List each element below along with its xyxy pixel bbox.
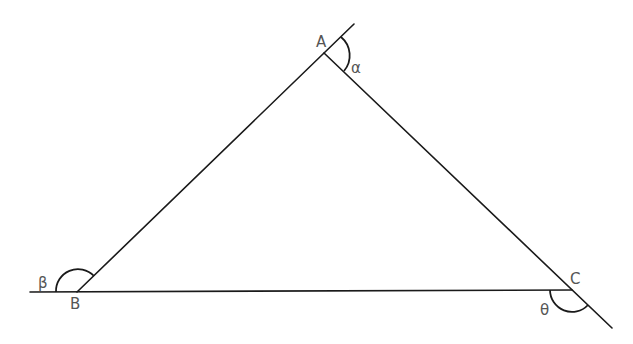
line-ab-extended <box>77 24 354 292</box>
angle-arc-alpha <box>341 37 350 71</box>
triangle-diagram: A B C α β θ <box>0 0 633 344</box>
angle-arc-theta <box>550 290 588 312</box>
line-bc-extended <box>30 290 572 292</box>
vertex-label-b: B <box>70 295 80 313</box>
angle-label-beta: β <box>38 274 48 292</box>
angle-label-alpha: α <box>351 59 361 77</box>
diagram-canvas: A B C α β θ <box>0 0 633 344</box>
vertex-label-c: C <box>570 270 580 288</box>
vertex-label-a: A <box>316 33 327 51</box>
angle-label-theta: θ <box>540 301 549 319</box>
line-ac-extended <box>324 53 612 328</box>
